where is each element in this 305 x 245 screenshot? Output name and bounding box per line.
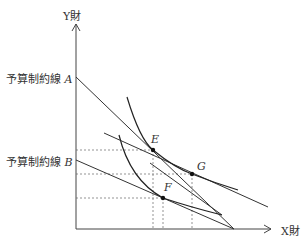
- tangent-line-f: [150, 163, 222, 215]
- x-axis-label: X財: [281, 222, 300, 238]
- point-g: [190, 172, 194, 176]
- diagram-canvas: [0, 0, 305, 245]
- budget-line-a-label: 予算制約線 A: [6, 70, 72, 86]
- budget-line-b-label: 予算制約線 B: [6, 153, 73, 169]
- indifference-curve-upper: [127, 97, 238, 190]
- guide-lines: [76, 150, 192, 229]
- point-f: [161, 196, 165, 200]
- point-f-label: F: [164, 181, 172, 194]
- point-g-label: G: [197, 160, 206, 173]
- point-e: [151, 148, 155, 152]
- point-e-label: E: [151, 133, 159, 146]
- budget-line-b: [76, 160, 234, 229]
- compensated-budget-line: [104, 133, 268, 207]
- y-axis-label: Y財: [63, 7, 81, 23]
